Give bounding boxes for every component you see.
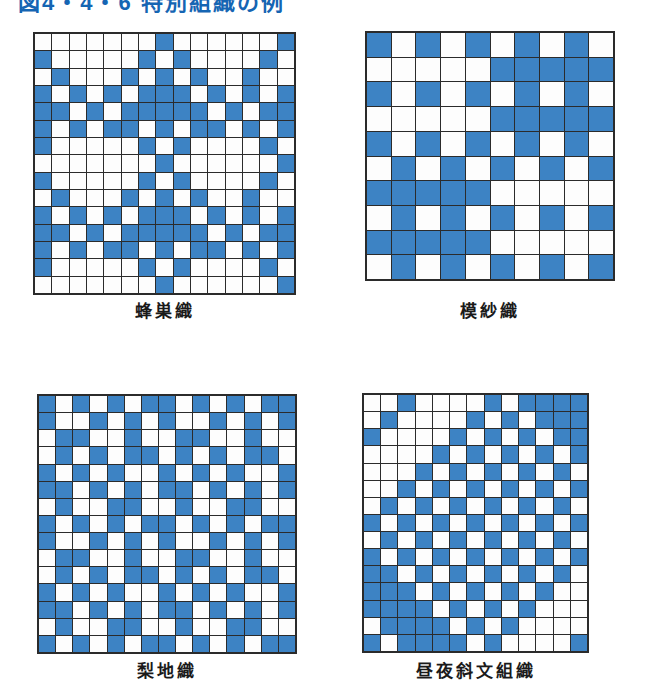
- weave-cell: [227, 602, 243, 618]
- weave-cell: [159, 499, 175, 515]
- weave-cell: [176, 619, 192, 635]
- weave-cell: [70, 155, 86, 171]
- weave-cell: [260, 138, 276, 154]
- weave-cell: [433, 481, 449, 497]
- weave-cell: [554, 395, 570, 411]
- weave-cell: [35, 51, 51, 67]
- weave-cell: [565, 157, 589, 181]
- weave-cell: [589, 107, 613, 131]
- weave-cell: [245, 499, 261, 515]
- weave-cell: [87, 121, 103, 137]
- weave-cell: [433, 446, 449, 462]
- weave-cell: [540, 231, 564, 255]
- weave-cell: [139, 155, 155, 171]
- weave-cell: [485, 635, 501, 651]
- weave-cell: [122, 173, 138, 189]
- weave-cell: [515, 157, 539, 181]
- weave-cell: [260, 51, 276, 67]
- weave-cell: [450, 635, 466, 651]
- weave-cell: [87, 259, 103, 275]
- weave-cell: [416, 132, 440, 156]
- weave-cell: [245, 619, 261, 635]
- weave-cell: [176, 465, 192, 481]
- weave-cell: [35, 34, 51, 50]
- weave-cell: [381, 566, 397, 582]
- weave-cell: [176, 482, 192, 498]
- weave-cell: [191, 51, 207, 67]
- weave-cell: [278, 259, 294, 275]
- weave-cell: [227, 413, 243, 429]
- weave-cell: [260, 103, 276, 119]
- weave-cell: [571, 481, 587, 497]
- weave-cell: [243, 225, 259, 241]
- weave-cell: [243, 207, 259, 223]
- weave-cell: [279, 499, 295, 515]
- weave-cell: [416, 429, 432, 445]
- weave-cell: [139, 173, 155, 189]
- weave-cell: [125, 499, 141, 515]
- weave-cell: [467, 395, 483, 411]
- weave-cell: [52, 69, 68, 85]
- weave-cell: [39, 413, 55, 429]
- weave-cell: [208, 121, 224, 137]
- weave-cell: [364, 412, 380, 428]
- weave-cell: [227, 516, 243, 532]
- weave-cell: [392, 206, 416, 230]
- weave-cell: [262, 482, 278, 498]
- weave-cell: [108, 430, 124, 446]
- weave-cell: [90, 584, 106, 600]
- weave-cell: [466, 181, 490, 205]
- weave-cell: [540, 206, 564, 230]
- weave-cell: [589, 181, 613, 205]
- weave-cell: [39, 567, 55, 583]
- weave-cell: [104, 86, 120, 102]
- weave-cell: [466, 107, 490, 131]
- weave-cell: [52, 138, 68, 154]
- weave-cell: [392, 33, 416, 57]
- weave-cell: [466, 132, 490, 156]
- weave-cell: [125, 550, 141, 566]
- weave-cell: [108, 584, 124, 600]
- weave-cell: [142, 396, 158, 412]
- weave-cell: [70, 86, 86, 102]
- weave-cell: [381, 429, 397, 445]
- weave-cell: [70, 190, 86, 206]
- weave-cell: [87, 190, 103, 206]
- weave-cell: [450, 601, 466, 617]
- weave-cell: [515, 58, 539, 82]
- weave-cell: [193, 584, 209, 600]
- weave-cell: [70, 138, 86, 154]
- weave-cell: [491, 255, 515, 279]
- weave-cell: [502, 549, 518, 565]
- weave-cell: [491, 33, 515, 57]
- weave-cell: [90, 499, 106, 515]
- weave-cell: [70, 34, 86, 50]
- weave-diagram-hachisu-ori: [33, 32, 296, 295]
- weave-cell: [441, 206, 465, 230]
- weave-cell: [519, 412, 535, 428]
- weave-cell: [104, 138, 120, 154]
- weave-cell: [416, 206, 440, 230]
- weave-cell: [416, 566, 432, 582]
- weave-cell: [450, 566, 466, 582]
- weave-cell: [142, 567, 158, 583]
- weave-cell: [125, 516, 141, 532]
- weave-cell: [227, 550, 243, 566]
- weave-cell: [441, 82, 465, 106]
- weave-cell: [441, 181, 465, 205]
- weave-cell: [571, 583, 587, 599]
- weave-cell: [210, 430, 226, 446]
- weave-cell: [139, 190, 155, 206]
- weave-cell: [502, 618, 518, 634]
- weave-cell: [39, 499, 55, 515]
- weave-cell: [208, 69, 224, 85]
- weave-cell: [73, 584, 89, 600]
- weave-cell: [450, 464, 466, 480]
- weave-cell: [208, 138, 224, 154]
- weave-cell: [52, 207, 68, 223]
- weave-cell: [491, 206, 515, 230]
- weave-cell: [35, 225, 51, 241]
- weave-cell: [540, 181, 564, 205]
- weave-cell: [243, 155, 259, 171]
- weave-cell: [73, 550, 89, 566]
